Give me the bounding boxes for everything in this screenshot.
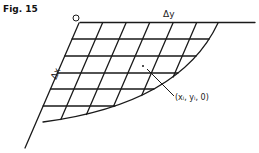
grid: [43, 23, 209, 120]
point-marker: [142, 65, 144, 67]
grid-slanted-line: [86, 23, 126, 115]
delta-y-label: Δy: [163, 9, 175, 19]
x-axis-line: [25, 23, 79, 148]
delta-x-label: Δx: [49, 66, 63, 81]
grid-slanted-line: [61, 23, 103, 120]
figure-title: Fig. 15: [3, 4, 38, 14]
origin-marker: [73, 15, 79, 21]
grid-slanted-line: [173, 23, 196, 77]
point-label: (xᵢ, yᵢ, 0): [175, 93, 209, 102]
grid-slanted-line: [142, 23, 173, 96]
diagram: Fig. 15 Δy Δx (xᵢ, yᵢ, 0): [0, 0, 259, 153]
